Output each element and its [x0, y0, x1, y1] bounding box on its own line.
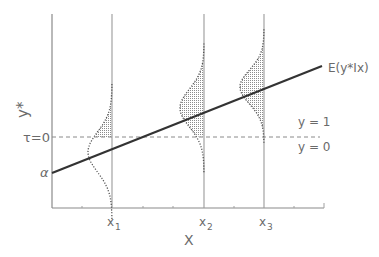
y-equals-1-label: y = 1 [298, 115, 330, 129]
threshold-label: τ=0 [23, 130, 50, 145]
x-tick-label-x3: x 3 [259, 215, 273, 232]
regression-line [52, 66, 322, 173]
latent-variable-diagram: E(y*Ix) y = 1 y = 0 τ=0 α y* x 1 x 2 x 3… [0, 0, 379, 257]
shaded-area-x1 [94, 84, 112, 137]
svg-text:1: 1 [115, 222, 121, 232]
intercept-label: α [40, 165, 49, 180]
x-axis-label: X [184, 232, 194, 248]
y-equals-0-label: y = 0 [298, 140, 330, 154]
svg-text:x: x [199, 215, 206, 229]
shaded-area-x2 [180, 43, 204, 136]
regression-label: E(y*Ix) [328, 61, 369, 75]
x-axis-minor-ticks [82, 203, 324, 208]
svg-text:2: 2 [207, 222, 213, 232]
y-axis-label: y* [14, 101, 32, 118]
density-curve-x1 [88, 84, 112, 220]
svg-text:3: 3 [267, 222, 273, 232]
x-tick-label-x1: x 1 [107, 215, 121, 232]
svg-text:x: x [259, 215, 266, 229]
x-tick-label-x2: x 2 [199, 215, 213, 232]
svg-text:x: x [107, 215, 114, 229]
